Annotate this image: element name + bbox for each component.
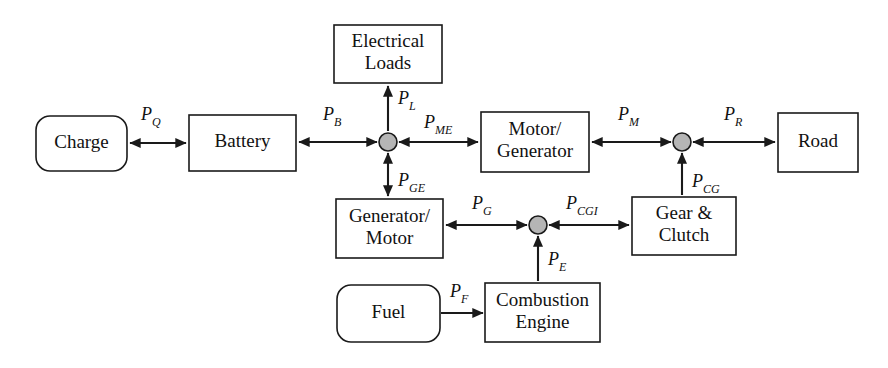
power-subscript: GE (409, 181, 426, 195)
power-subscript: F (460, 292, 469, 306)
power-label-p-g: PG (471, 193, 492, 218)
power-label-p-l: PL (397, 88, 416, 113)
block-label-combustion-engine: Engine (516, 311, 570, 332)
power-label-p-cg: PCG (691, 171, 720, 196)
power-subscript: ME (434, 123, 453, 137)
power-label-p-ge: PGE (397, 170, 426, 195)
component-blocks-layer: ChargeBatteryElectricalLoadsMotor/Genera… (36, 25, 858, 342)
power-subscript: E (558, 260, 567, 274)
power-subscript: G (483, 204, 492, 218)
junction-node-electric[interactable] (379, 133, 397, 151)
block-label-battery: Battery (215, 130, 271, 151)
power-label-p-me: PME (423, 112, 453, 137)
block-fuel[interactable]: Fuel (337, 285, 440, 342)
block-label-motor-generator: Generator (497, 140, 574, 161)
power-symbol: P (140, 104, 152, 124)
power-subscript: M (628, 115, 640, 129)
block-generator-motor[interactable]: Generator/Motor (336, 199, 443, 258)
power-symbol: P (322, 104, 334, 124)
block-charge[interactable]: Charge (36, 116, 127, 171)
block-label-electrical-loads: Loads (365, 52, 411, 73)
power-subscript: CGI (577, 204, 599, 218)
block-label-generator-motor: Motor (366, 227, 414, 248)
power-symbol: P (423, 112, 435, 132)
block-label-combustion-engine: Combustion (496, 289, 589, 310)
block-combustion-engine[interactable]: CombustionEngine (485, 283, 600, 342)
power-symbol: P (397, 88, 409, 108)
block-label-charge: Charge (54, 131, 109, 152)
block-label-gear-clutch: Clutch (659, 224, 710, 245)
block-label-gear-clutch: Gear & (656, 202, 713, 223)
block-label-fuel: Fuel (372, 301, 406, 322)
block-road[interactable]: Road (778, 113, 858, 172)
block-label-road: Road (798, 130, 839, 151)
block-motor-generator[interactable]: Motor/Generator (481, 112, 589, 172)
power-flow-diagram: ChargeBatteryElectricalLoadsMotor/Genera… (0, 0, 888, 368)
diagram-canvas: ChargeBatteryElectricalLoadsMotor/Genera… (0, 0, 888, 368)
power-subscript: L (408, 99, 416, 113)
power-label-p-r: PR (723, 104, 743, 129)
block-gear-clutch[interactable]: Gear &Clutch (632, 197, 736, 255)
block-battery[interactable]: Battery (189, 115, 296, 171)
power-subscript: B (334, 115, 342, 129)
block-label-electrical-loads: Electrical (352, 30, 425, 51)
power-symbol: P (397, 170, 409, 190)
power-subscript: R (734, 115, 743, 129)
power-label-p-f: PF (449, 281, 469, 306)
power-label-p-b: PB (322, 104, 342, 129)
power-symbol: P (547, 249, 559, 269)
power-label-p-m: PM (617, 104, 640, 129)
block-label-motor-generator: Motor/ (509, 118, 563, 139)
power-label-p-cgi: PCGI (565, 193, 599, 218)
junction-node-drive[interactable] (673, 133, 691, 151)
power-symbol: P (449, 281, 461, 301)
junction-node-engine[interactable] (529, 216, 547, 234)
power-symbol: P (723, 104, 735, 124)
power-symbol: P (691, 171, 703, 191)
block-electrical-loads[interactable]: ElectricalLoads (334, 25, 442, 83)
power-label-p-e: PE (547, 249, 567, 274)
power-symbol: P (471, 193, 483, 213)
power-subscript: Q (152, 115, 161, 129)
power-symbol: P (565, 193, 577, 213)
power-subscript: CG (703, 182, 720, 196)
power-label-p-q: PQ (140, 104, 161, 129)
block-label-generator-motor: Generator/ (349, 205, 431, 226)
power-symbol: P (617, 104, 629, 124)
